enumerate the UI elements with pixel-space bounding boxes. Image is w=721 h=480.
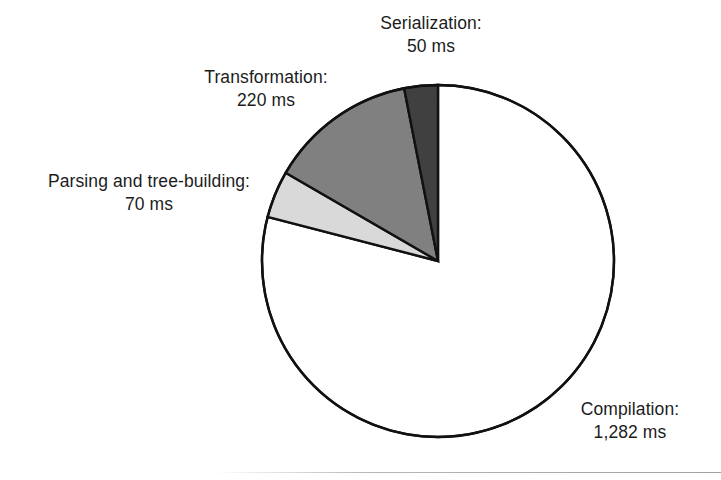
- pie-label-transformation: Transformation: 220 ms: [170, 66, 362, 112]
- pie-label-parsing-and-tree-building-name: Parsing and tree-building:: [18, 170, 280, 193]
- pie-label-serialization-value: 50 ms: [341, 35, 521, 58]
- pie-label-parsing-and-tree-building: Parsing and tree-building: 70 ms: [18, 170, 280, 216]
- pie-label-parsing-and-tree-building-value: 70 ms: [18, 193, 280, 216]
- pie-label-compilation-value: 1,282 ms: [540, 421, 720, 444]
- pie-label-serialization: Serialization: 50 ms: [341, 12, 521, 58]
- pie-label-transformation-name: Transformation:: [170, 66, 362, 89]
- page-bottom-rule: [214, 472, 721, 473]
- pie-chart-figure: Serialization: 50 ms Transformation: 220…: [0, 0, 721, 480]
- pie-label-transformation-value: 220 ms: [170, 89, 362, 112]
- pie-label-compilation: Compilation: 1,282 ms: [540, 398, 720, 444]
- pie-label-serialization-name: Serialization:: [341, 12, 521, 35]
- pie-label-compilation-name: Compilation:: [540, 398, 720, 421]
